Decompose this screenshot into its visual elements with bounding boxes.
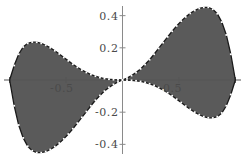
curve-marker bbox=[104, 90, 106, 92]
curve-marker bbox=[135, 80, 137, 82]
curve-marker bbox=[108, 87, 110, 89]
curve-marker bbox=[171, 30, 173, 32]
curve-marker bbox=[221, 112, 223, 114]
curve-marker bbox=[126, 79, 128, 81]
curve-marker bbox=[185, 16, 187, 18]
curve-marker bbox=[171, 95, 173, 97]
curve-marker bbox=[225, 34, 227, 36]
curve-marker bbox=[180, 20, 182, 22]
curve-marker bbox=[117, 79, 119, 81]
curve-marker bbox=[76, 66, 78, 68]
curve-marker bbox=[158, 87, 160, 89]
curve-marker bbox=[176, 25, 178, 27]
curve-marker bbox=[95, 75, 97, 77]
curve-marker bbox=[230, 53, 232, 55]
curve-marker bbox=[31, 150, 33, 152]
curve-marker bbox=[113, 79, 115, 81]
curve-marker bbox=[153, 53, 155, 55]
curve-marker bbox=[81, 116, 83, 118]
y-tick-label: 0.4 bbox=[93, 11, 119, 22]
curve-marker bbox=[36, 152, 38, 154]
curve-marker bbox=[185, 105, 187, 107]
curve-marker bbox=[99, 95, 101, 97]
curve-marker bbox=[72, 128, 74, 130]
curve-marker bbox=[153, 85, 155, 87]
curve-marker bbox=[13, 105, 15, 107]
curve-marker bbox=[108, 78, 110, 80]
curve-marker bbox=[85, 72, 87, 74]
curve-marker bbox=[63, 57, 65, 59]
curve-marker bbox=[189, 13, 191, 15]
curve-marker bbox=[18, 53, 20, 55]
curve-marker bbox=[122, 79, 124, 81]
curve-marker bbox=[198, 8, 200, 10]
curve-marker bbox=[207, 117, 209, 119]
curve-marker bbox=[113, 83, 115, 85]
curve-marker bbox=[99, 77, 101, 79]
curve-marker bbox=[189, 108, 191, 110]
curve-marker bbox=[40, 42, 42, 44]
curve-marker bbox=[13, 65, 15, 67]
curve-marker bbox=[180, 102, 182, 104]
curve-marker bbox=[167, 36, 169, 38]
curve-marker bbox=[76, 122, 78, 124]
curve-marker bbox=[104, 78, 106, 80]
curve-marker bbox=[90, 74, 92, 76]
y-tick-label: -0.4 bbox=[93, 139, 119, 150]
curve-marker bbox=[131, 79, 133, 81]
curve-marker bbox=[176, 98, 178, 100]
curve-marker bbox=[54, 50, 56, 52]
curve-marker bbox=[22, 46, 24, 48]
curve-marker bbox=[18, 124, 20, 126]
curve-marker bbox=[45, 151, 47, 153]
curve-marker bbox=[72, 63, 74, 65]
x-tick-label: 0.5 bbox=[163, 83, 182, 94]
curve-marker bbox=[230, 94, 232, 96]
curve-marker bbox=[144, 82, 146, 84]
curve-marker bbox=[144, 64, 146, 66]
curve-marker bbox=[203, 6, 205, 8]
curve-marker bbox=[58, 53, 60, 55]
curve-marker bbox=[95, 99, 97, 101]
curve-marker bbox=[149, 83, 151, 85]
y-tick-label: -0.2 bbox=[93, 107, 119, 118]
curve-marker bbox=[49, 47, 51, 49]
curve-marker bbox=[49, 149, 51, 151]
curve-marker bbox=[221, 21, 223, 23]
curve-marker bbox=[194, 111, 196, 113]
curve-marker bbox=[203, 116, 205, 118]
y-tick-label: 0.2 bbox=[93, 43, 119, 54]
curve-marker bbox=[212, 8, 214, 10]
curve-marker bbox=[58, 142, 60, 144]
curve-marker bbox=[36, 41, 38, 43]
curve-marker bbox=[22, 137, 24, 139]
curve-marker bbox=[207, 6, 209, 8]
curve-marker bbox=[27, 42, 29, 44]
curve-marker bbox=[225, 105, 227, 107]
curve-marker bbox=[140, 81, 142, 83]
curve-marker bbox=[117, 81, 119, 83]
curve-marker bbox=[54, 146, 56, 148]
curve-marker bbox=[85, 111, 87, 113]
curve-marker bbox=[149, 59, 151, 61]
curve-marker bbox=[162, 42, 164, 44]
curve-marker bbox=[135, 72, 137, 74]
curve-marker bbox=[140, 68, 142, 70]
chart-svg bbox=[0, 0, 245, 160]
x-tick-label: -0.5 bbox=[50, 83, 74, 94]
curve-marker bbox=[216, 13, 218, 15]
curve-marker bbox=[63, 138, 65, 140]
curve-marker bbox=[45, 44, 47, 46]
plot-canvas: -0.50.50.40.2-0.2-0.4 bbox=[0, 0, 245, 160]
curve-marker bbox=[81, 69, 83, 71]
curve-marker bbox=[126, 77, 128, 79]
curve-marker bbox=[216, 116, 218, 118]
curve-marker bbox=[158, 48, 160, 50]
curve-marker bbox=[67, 133, 69, 135]
curve-marker bbox=[131, 75, 133, 77]
curve-marker bbox=[40, 152, 42, 154]
curve-marker bbox=[31, 41, 33, 43]
curve-marker bbox=[27, 145, 29, 147]
curve-marker bbox=[194, 10, 196, 12]
curve-marker bbox=[67, 60, 69, 62]
